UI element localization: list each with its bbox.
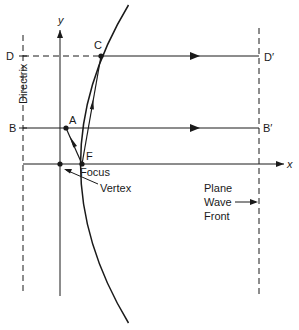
label-a: A (69, 114, 77, 126)
point-vertex (57, 161, 62, 166)
ray-fc-arrow-icon (90, 99, 94, 110)
label-f: F (86, 150, 93, 162)
parabola-diagram: y x C A F D D′ B B′ Directrix Focus Vert… (0, 0, 299, 330)
wavefront-label-line3: Front (204, 210, 230, 222)
point-c (98, 53, 103, 58)
vertex-arrow-icon (64, 169, 72, 174)
vertex-label: Vertex (100, 182, 132, 194)
ray-c-arrow-icon (190, 52, 200, 60)
directrix-label: Directrix (17, 63, 29, 104)
point-a (63, 125, 68, 130)
label-d-prime: D′ (264, 51, 274, 63)
label-b: B (9, 122, 16, 134)
focus-label: Focus (80, 166, 110, 178)
x-axis-label: x (286, 158, 293, 170)
ray-fa-arrow-icon (70, 136, 78, 148)
ray-f-c (82, 56, 101, 164)
wavefront-label-line2: Wave (204, 196, 232, 208)
y-axis-label: y (57, 14, 65, 26)
label-d: D (6, 50, 14, 62)
label-c: C (94, 39, 102, 51)
label-b-prime: B′ (263, 122, 272, 134)
wavefront-label-line1: Plane (204, 182, 232, 194)
ray-a-arrow-icon (190, 124, 200, 132)
wavefront-arrow-icon (250, 199, 258, 205)
